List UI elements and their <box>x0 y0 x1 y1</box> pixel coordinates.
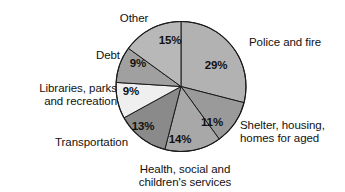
category-label-police-and-fire: Police and fire <box>249 36 321 49</box>
category-label-shelter-line1: Shelter, housing, <box>240 119 325 131</box>
slice-value-libraries: 9% <box>123 86 139 98</box>
category-label-libraries-line1: Libraries, parks <box>39 82 117 94</box>
category-label-other: Other <box>120 12 149 25</box>
category-label-health-line1: Health, social and <box>140 163 231 175</box>
pie-chart-figure: 29% 11% 14% 13% 9% 9% 15% Police and fir… <box>0 0 345 192</box>
slice-value-health: 14% <box>169 134 192 146</box>
slice-value-police-and-fire: 29% <box>205 60 228 72</box>
slice-value-other: 15% <box>159 35 182 47</box>
category-label-transportation: Transportation <box>55 136 128 149</box>
chart-area: 29% 11% 14% 13% 9% 9% 15% Police and fir… <box>0 0 345 192</box>
slice-value-transportation: 13% <box>132 121 155 133</box>
category-label-shelter: Shelter, housing, homes for aged <box>240 119 325 145</box>
slice-value-shelter: 11% <box>201 117 223 129</box>
category-label-health: Health, social and children's services <box>139 163 232 189</box>
category-label-libraries-line2: and recreation <box>44 95 117 107</box>
category-label-shelter-line2: homes for aged <box>240 132 319 144</box>
slice-value-debt: 9% <box>130 58 146 70</box>
category-label-libraries: Libraries, parks and recreation <box>39 82 117 108</box>
category-label-debt: Debt <box>96 49 120 62</box>
category-label-health-line2: children's services <box>139 176 232 188</box>
